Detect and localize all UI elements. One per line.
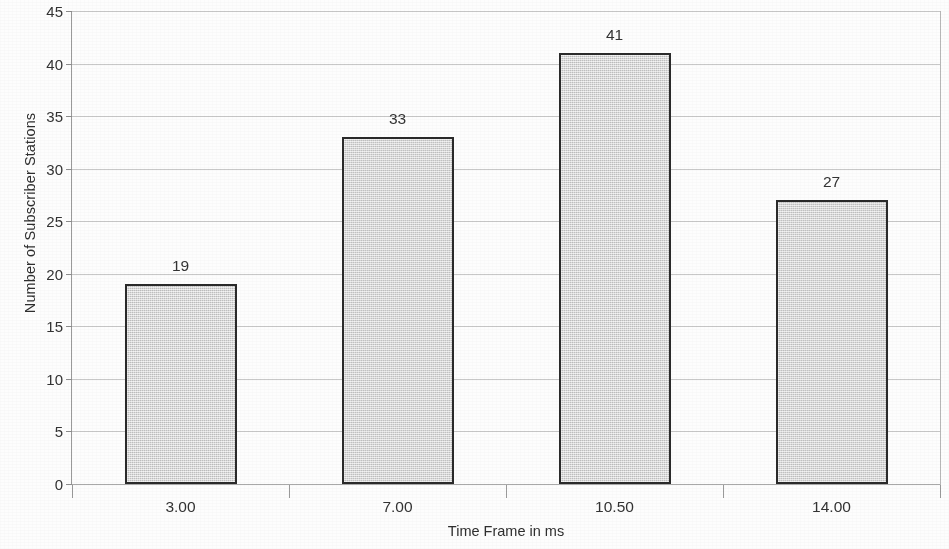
x-tick-mark (723, 485, 724, 498)
y-tick-label: 15 (46, 318, 63, 335)
plot-right-spine (940, 11, 941, 485)
y-tick-mark (66, 431, 72, 432)
x-tick-mark (72, 485, 73, 498)
gridline (72, 169, 940, 170)
x-tick-mark (289, 485, 290, 498)
y-tick-mark (66, 64, 72, 65)
gridline (72, 116, 940, 117)
x-tick-mark (940, 485, 941, 498)
x-axis-title: Time Frame in ms (72, 523, 940, 539)
y-tick-mark (66, 274, 72, 275)
y-tick-label: 40 (46, 55, 63, 72)
y-tick-label: 0 (55, 476, 63, 493)
y-tick-mark (66, 379, 72, 380)
x-tick-label: 10.50 (595, 498, 634, 516)
bar-value-label: 41 (606, 26, 623, 44)
y-tick-mark (66, 326, 72, 327)
y-tick-label: 35 (46, 108, 63, 125)
plot-area: 051015202530354045 19334127 3.007.0010.5… (72, 11, 940, 484)
bar-chart-figure: Number of Subscriber Stations 0510152025… (0, 0, 949, 549)
x-tick-label: 3.00 (165, 498, 195, 516)
y-tick-mark (66, 11, 72, 12)
y-tick-mark (66, 169, 72, 170)
gridline (72, 11, 940, 12)
y-axis-spine (71, 11, 72, 485)
bar-value-label: 33 (389, 110, 406, 128)
bar-value-label: 19 (172, 257, 189, 275)
bar (559, 53, 671, 484)
y-axis-title: Number of Subscriber Stations (22, 63, 38, 363)
y-tick-mark (66, 116, 72, 117)
y-tick-mark (66, 221, 72, 222)
x-tick-label: 7.00 (382, 498, 412, 516)
gridline (72, 64, 940, 65)
bar (776, 200, 888, 484)
y-tick-label: 5 (55, 423, 63, 440)
bar-value-label: 27 (823, 173, 840, 191)
y-tick-label: 20 (46, 265, 63, 282)
y-tick-label: 10 (46, 370, 63, 387)
bar (342, 137, 454, 484)
y-tick-label: 45 (46, 3, 63, 20)
y-tick-label: 30 (46, 160, 63, 177)
y-tick-label: 25 (46, 213, 63, 230)
x-tick-mark (506, 485, 507, 498)
x-tick-label: 14.00 (812, 498, 851, 516)
bar (125, 284, 237, 484)
